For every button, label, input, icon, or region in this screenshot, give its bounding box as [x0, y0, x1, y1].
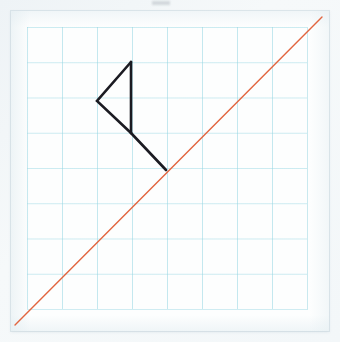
diagonal-line	[15, 17, 322, 325]
flag-pole	[131, 133, 166, 170]
ink-layer	[0, 0, 340, 342]
flag-triangle	[97, 62, 131, 133]
drawing-canvas	[0, 0, 340, 342]
